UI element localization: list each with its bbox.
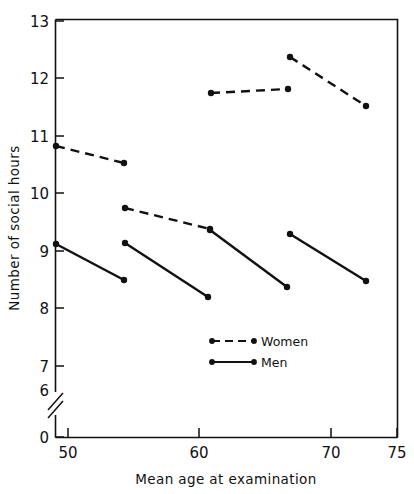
women-point (121, 160, 127, 166)
figure-container: 13 12 11 10 9 8 7 6 0 50 60 70 75 Mean a… (0, 0, 414, 494)
women-point (53, 143, 59, 149)
x-tick-label-70: 70 (321, 444, 340, 462)
women-point (122, 205, 128, 211)
women-cohort-2-line (125, 208, 210, 229)
men-cohort-2-line (125, 243, 208, 297)
x-axis-title: Mean age at examination (135, 471, 317, 487)
series-men (56, 230, 366, 297)
y-axis-ticks (56, 21, 65, 437)
plot-frame (48, 20, 398, 438)
men-cohort-3-line (210, 230, 287, 287)
legend-label-men: Men (261, 355, 287, 370)
men-point (121, 277, 127, 283)
legend-label-women: Women (261, 334, 308, 349)
social-hours-line-chart: 13 12 11 10 9 8 7 6 0 50 60 70 75 Mean a… (0, 0, 414, 494)
y-tick-label-13: 13 (30, 13, 49, 31)
legend-item-men: Men (209, 355, 287, 370)
legend-men-marker-start (209, 359, 215, 365)
men-point (287, 231, 293, 237)
y-axis-break-icon (48, 393, 63, 418)
women-cohort-3-line (211, 89, 288, 93)
x-tick-label-75: 75 (387, 444, 406, 462)
y-tick-label-0: 0 (39, 429, 49, 447)
women-point (287, 54, 293, 60)
women-cohort-4-line (290, 57, 366, 106)
women-point (363, 103, 369, 109)
men-point (284, 284, 290, 290)
legend-women-marker-start (209, 338, 215, 344)
y-tick-label-8: 8 (39, 300, 49, 318)
women-point (285, 86, 291, 92)
men-point (53, 241, 59, 247)
men-point (122, 240, 128, 246)
series-women (56, 57, 366, 229)
men-point (207, 227, 213, 233)
x-axis-ticks (68, 428, 397, 438)
y-axis-tick-labels: 13 12 11 10 9 8 7 6 0 (30, 13, 49, 447)
men-point (363, 278, 369, 284)
men-cohort-1-line (56, 244, 124, 280)
x-axis-tick-labels: 50 60 70 75 (58, 444, 406, 462)
women-cohort-1-line (56, 146, 124, 163)
x-tick-label-50: 50 (58, 444, 77, 462)
men-point (205, 294, 211, 300)
men-cohort-4-line (290, 234, 366, 281)
y-tick-label-7: 7 (39, 358, 49, 376)
y-tick-label-12: 12 (30, 70, 49, 88)
y-tick-label-6: 6 (39, 382, 49, 400)
series-women-markers (53, 54, 369, 232)
chart-legend: Women Men (209, 334, 308, 370)
women-point (208, 90, 214, 96)
y-tick-label-9: 9 (39, 243, 49, 261)
y-tick-label-10: 10 (30, 185, 49, 203)
y-tick-label-11: 11 (30, 128, 49, 146)
series-men-markers (53, 227, 369, 300)
legend-women-marker-end (251, 338, 257, 344)
x-tick-label-60: 60 (189, 444, 208, 462)
legend-men-marker-end (251, 359, 257, 365)
y-axis-title: Number of social hours (6, 145, 22, 310)
legend-item-women: Women (209, 334, 308, 349)
